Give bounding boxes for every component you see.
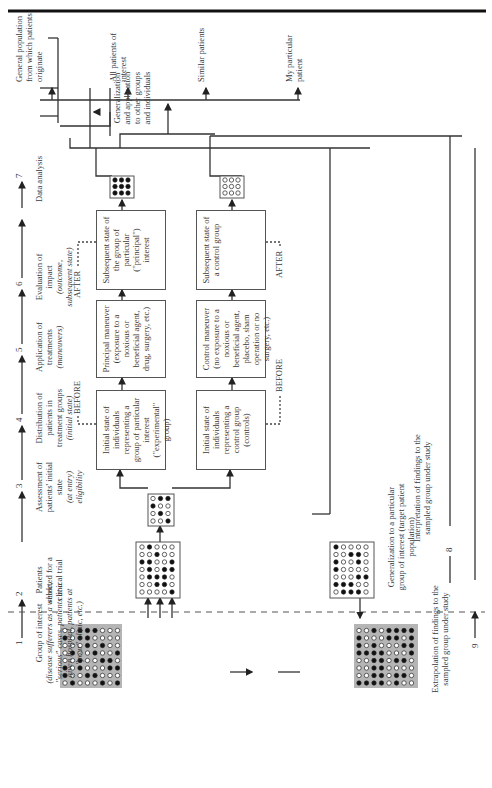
before-marker-bottom: BEFORE — [274, 359, 284, 392]
box-control-maneuver: Control maneuver (no exposure to a noxio… — [196, 300, 266, 378]
box-subsequent-principal: Subsequent state of the group of particu… — [96, 210, 166, 290]
target-all-patients: All patients of interest — [108, 12, 128, 82]
step-1-number: 1 — [14, 641, 24, 646]
step-6-label: Evaluation of impact(outcome, subsequent… — [34, 242, 74, 312]
step-3-number: 3 — [14, 484, 24, 489]
step-9-number: 9 — [470, 644, 480, 649]
box-initial-experimental: Initial state of individuals representin… — [96, 390, 166, 470]
step-7-label: Data analysis — [34, 154, 44, 204]
step-4-number: 4 — [14, 418, 24, 423]
after-marker-top: AFTER — [72, 271, 82, 298]
clinical-trial-diagram: 1 Group of interest(disease sufferers as… — [0, 0, 492, 788]
step-4-label: Distribution of patients in treatment gr… — [34, 384, 74, 452]
target-similar-patients: Similar patients — [196, 12, 206, 82]
step-2-label: Patients selected for a clinical trial — [34, 552, 64, 608]
box-subsequent-control: Subsequent state of a control group — [196, 210, 266, 290]
step-8-number: 8 — [444, 548, 454, 553]
after-marker-bottom: AFTER — [274, 251, 284, 278]
step-5-number: 5 — [14, 348, 24, 353]
interpretation-label: Interpretation of findings to the sample… — [412, 428, 432, 548]
step-6-number: 6 — [14, 282, 24, 287]
extrapolation-label: Extrapolation of findings to the sampled… — [430, 584, 450, 694]
box-principal-maneuver: Principal maneuver (exposure to a noxiou… — [96, 300, 166, 378]
step-3-label: Assessment of patients' initial state(at… — [34, 454, 84, 520]
step-2-number: 2 — [14, 592, 24, 597]
target-general-population: General population from which patients o… — [14, 12, 44, 82]
step-5-label: Application of treatments(maneuvers) — [34, 314, 64, 380]
target-my-patient: My particular patient — [284, 12, 304, 82]
step-7-number: 7 — [14, 174, 24, 179]
before-marker-top: BEFORE — [72, 381, 82, 414]
box-initial-control: Initial state of individuals representin… — [196, 390, 266, 470]
